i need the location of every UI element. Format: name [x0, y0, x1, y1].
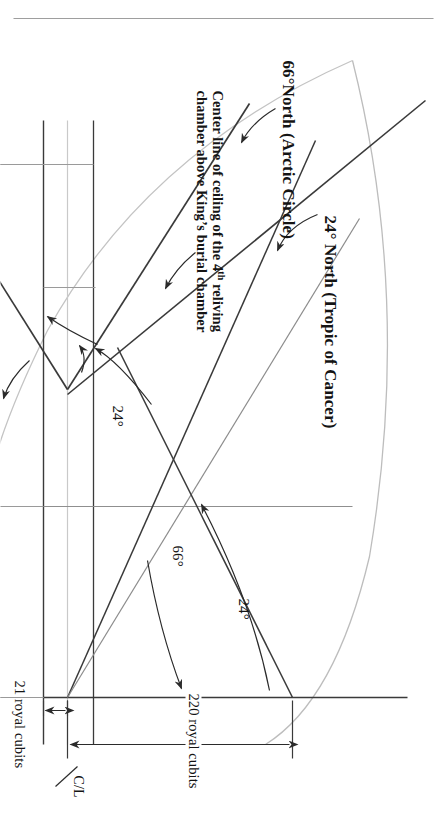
angle-arc-24-upper	[201, 504, 269, 690]
label-angle-24-upper: 24°	[234, 598, 251, 619]
label-center-line-part1: Center line of ceiling of the 4	[209, 90, 225, 271]
angle-arc-66	[147, 560, 181, 688]
dimension-21	[43, 700, 67, 716]
label-leaders	[0, 108, 317, 700]
leader-center-line-upper	[165, 252, 195, 288]
label-angle-66: 66°	[168, 545, 185, 566]
angle-pointer-down	[47, 316, 97, 344]
angle-arc-24-lower	[95, 348, 151, 404]
diagram-stage: 66°North (Arctic Circle) 24° North (Trop…	[0, 0, 447, 819]
angle-arcs	[47, 316, 269, 690]
pyramid-outline	[67, 100, 425, 394]
dimension-220	[67, 700, 292, 758]
label-dimension-220: 220 royal cubits	[185, 688, 201, 793]
label-dimension-21: 21 royal cubits	[11, 680, 27, 768]
label-arctic-circle: 66°North (Arctic Circle)	[278, 60, 297, 239]
dimension-height-11452	[0, 506, 43, 697]
label-center-line-ordinal: th	[216, 271, 227, 280]
label-tropic-of-cancer: 24° North (Tropic of Cancer)	[320, 215, 339, 428]
lower-construction-lines	[0, 164, 43, 697]
diagram-page: 66°North (Arctic Circle) 24° North (Trop…	[0, 0, 447, 819]
label-center-line-marker: C/L	[69, 775, 85, 797]
label-center-line-part2: chamber above King’s burial chamber	[193, 90, 209, 332]
label-angle-24-lower: 24°	[108, 405, 125, 426]
label-center-line-block: Center line of ceiling of the 4th relivi…	[193, 90, 225, 420]
label-center-line-part1-tail: reliving	[209, 280, 225, 332]
leader-arctic-circle	[241, 108, 275, 142]
